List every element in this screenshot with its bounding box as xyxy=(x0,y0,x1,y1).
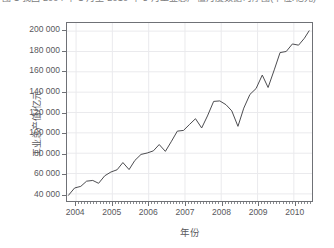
x-tick-mark-minor xyxy=(203,202,204,204)
x-tick-mark-minor xyxy=(301,202,302,204)
x-tick-mark-minor xyxy=(109,202,110,204)
x-tick-mark-minor xyxy=(197,202,198,204)
x-tick-mark-minor xyxy=(209,202,210,204)
x-tick-mark-minor xyxy=(78,202,79,204)
x-tick-mark-minor xyxy=(96,202,97,204)
y-tick-mark xyxy=(62,154,66,155)
x-tick-mark-minor xyxy=(237,202,238,204)
y-tick-mark xyxy=(62,30,66,31)
vertical-gridlines xyxy=(76,23,294,201)
x-tick-label: 2006 xyxy=(139,207,158,217)
x-tick-mark-major xyxy=(295,202,296,206)
x-tick-mark-major xyxy=(148,202,149,206)
x-tick-mark-minor xyxy=(212,202,213,204)
y-tick-mark xyxy=(62,71,66,72)
x-tick-mark-minor xyxy=(206,202,207,204)
x-tick-mark-minor xyxy=(182,202,183,204)
x-tick-mark-minor xyxy=(142,202,143,204)
y-tick-mark xyxy=(62,51,66,52)
x-tick-mark-minor xyxy=(304,202,305,204)
x-tick-mark-minor xyxy=(161,202,162,204)
x-tick-label: 2007 xyxy=(175,207,194,217)
x-tick-label: 2008 xyxy=(212,207,231,217)
x-tick-mark-minor xyxy=(84,202,85,204)
x-tick-mark-minor xyxy=(133,202,134,204)
x-tick-mark-minor xyxy=(103,202,104,204)
x-tick-mark-minor xyxy=(121,202,122,204)
data-line xyxy=(68,31,309,195)
y-tick-label: 120 000 xyxy=(14,107,60,117)
x-tick-mark-minor xyxy=(127,202,128,204)
x-tick-mark-minor xyxy=(170,202,171,204)
x-tick-label: 2010 xyxy=(285,207,304,217)
x-tick-mark-minor xyxy=(115,202,116,204)
x-tick-mark-major xyxy=(222,202,223,206)
x-tick-mark-minor xyxy=(118,202,119,204)
x-tick-mark-minor xyxy=(87,202,88,204)
x-tick-mark-minor xyxy=(188,202,189,204)
time-series-chart: 工业总产值/亿元 40 00060 00080 000100 000120 00… xyxy=(0,0,334,248)
y-tick-label: 80 000 xyxy=(14,148,60,158)
x-tick-mark-minor xyxy=(176,202,177,204)
x-tick-mark-minor xyxy=(139,202,140,204)
x-tick-mark-minor xyxy=(173,202,174,204)
x-tick-mark-minor xyxy=(273,202,274,204)
y-tick-mark xyxy=(62,195,66,196)
x-tick-mark-minor xyxy=(145,202,146,204)
y-tick-label: 100 000 xyxy=(14,127,60,137)
x-tick-mark-minor xyxy=(100,202,101,204)
x-tick-mark-minor xyxy=(164,202,165,204)
x-tick-mark-minor xyxy=(136,202,137,204)
x-tick-mark-major xyxy=(75,202,76,206)
x-tick-mark-minor xyxy=(81,202,82,204)
x-tick-mark-minor xyxy=(249,202,250,204)
y-tick-mark xyxy=(62,174,66,175)
x-tick-mark-minor xyxy=(130,202,131,204)
x-tick-mark-minor xyxy=(124,202,125,204)
x-tick-mark-major xyxy=(112,202,113,206)
x-tick-mark-minor xyxy=(255,202,256,204)
y-tick-label: 200 000 xyxy=(14,24,60,34)
series-line xyxy=(67,23,312,201)
x-tick-mark-minor xyxy=(106,202,107,204)
x-tick-mark-minor xyxy=(218,202,219,204)
x-tick-mark-minor xyxy=(270,202,271,204)
horizontal-gridlines xyxy=(67,31,312,194)
x-tick-mark-minor xyxy=(228,202,229,204)
x-axis-title: 年份 xyxy=(66,225,313,239)
x-tick-label: 2005 xyxy=(102,207,121,217)
x-tick-mark-minor xyxy=(286,202,287,204)
x-tick-mark-minor xyxy=(231,202,232,204)
plot-area xyxy=(66,22,313,202)
y-tick-label: 40 000 xyxy=(14,189,60,199)
x-tick-mark-minor xyxy=(276,202,277,204)
y-tick-label: 180 000 xyxy=(14,45,60,55)
x-tick-mark-minor xyxy=(215,202,216,204)
x-tick-mark-major xyxy=(185,202,186,206)
x-tick-mark-minor xyxy=(191,202,192,204)
x-tick-mark-minor xyxy=(151,202,152,204)
y-tick-mark xyxy=(62,92,66,93)
x-tick-mark-minor xyxy=(283,202,284,204)
y-tick-mark xyxy=(62,113,66,114)
x-tick-mark-minor xyxy=(234,202,235,204)
y-tick-label: 60 000 xyxy=(14,168,60,178)
x-tick-mark-minor xyxy=(240,202,241,204)
x-tick-mark-minor xyxy=(267,202,268,204)
x-tick-mark-minor xyxy=(200,202,201,204)
x-tick-mark-minor xyxy=(292,202,293,204)
x-tick-mark-minor xyxy=(157,202,158,204)
x-tick-mark-minor xyxy=(154,202,155,204)
x-tick-mark-minor xyxy=(194,202,195,204)
x-tick-mark-minor xyxy=(243,202,244,204)
y-tick-mark xyxy=(62,133,66,134)
x-tick-mark-minor xyxy=(167,202,168,204)
x-tick-mark-minor xyxy=(252,202,253,204)
x-tick-mark-minor xyxy=(298,202,299,204)
x-tick-mark-minor xyxy=(90,202,91,204)
x-tick-mark-minor xyxy=(264,202,265,204)
x-tick-mark-major xyxy=(258,202,259,206)
x-tick-mark-minor xyxy=(246,202,247,204)
x-tick-mark-minor xyxy=(279,202,280,204)
x-tick-label: 2004 xyxy=(66,207,85,217)
